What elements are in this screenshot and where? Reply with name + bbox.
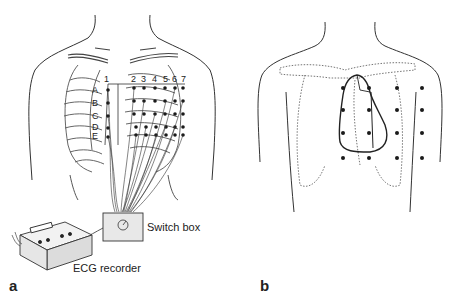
panel-label-b: b: [260, 277, 269, 294]
row-label-c: C: [92, 111, 99, 121]
panel-b-heart-outline: [339, 75, 387, 152]
panel-a-cable-bundle: [108, 88, 183, 212]
row-label-a: A: [92, 85, 98, 95]
panel-a-torso: [29, 15, 215, 180]
panel-b-torso: [258, 22, 442, 212]
column-label-3: 3: [141, 74, 146, 84]
column-label-2: 2: [131, 74, 136, 84]
column-label-1: 1: [104, 74, 109, 84]
panel-b-electrodes: [341, 86, 424, 160]
column-label-7: 7: [181, 74, 186, 84]
column-label-5: 5: [163, 74, 168, 84]
row-label-e: E: [92, 131, 98, 141]
column-label-6: 6: [172, 74, 177, 84]
panel-label-a: a: [9, 277, 17, 294]
panel-a-clavicles: [68, 48, 178, 63]
figure-canvas: [0, 0, 455, 298]
switch-box: [103, 213, 143, 241]
column-label-4: 4: [152, 74, 157, 84]
ecg-recorder-label: ECG recorder: [73, 262, 141, 274]
row-label-b: B: [92, 98, 98, 108]
switch-box-label: Switch box: [147, 221, 200, 233]
